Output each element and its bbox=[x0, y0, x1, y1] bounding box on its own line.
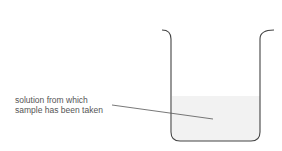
solution-label: solution from which sample has been take… bbox=[15, 96, 103, 115]
beaker-diagram bbox=[0, 0, 282, 151]
liquid bbox=[172, 96, 260, 141]
label-line-2: sample has been taken bbox=[15, 106, 103, 116]
